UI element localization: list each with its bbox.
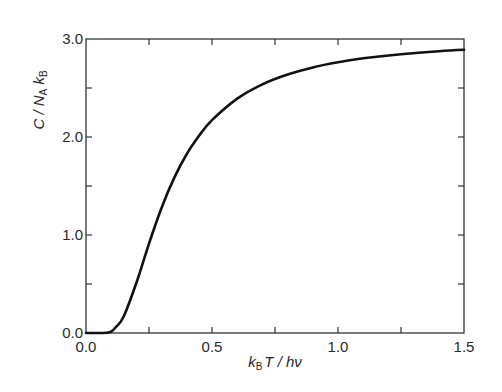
- x-tick-label: 0.5: [202, 338, 223, 355]
- heat-capacity-chart: 0.00.51.01.50.01.02.03.0 kBT / hν C / NA…: [0, 0, 502, 392]
- x-tick-label: 1.5: [454, 338, 475, 355]
- y-axis-label: C / NA kB: [30, 70, 49, 130]
- axis-ticks: [86, 39, 464, 333]
- x-axis-label: kBT / hν: [248, 353, 302, 372]
- tick-labels: 0.00.51.01.50.01.02.03.0: [62, 30, 474, 355]
- y-tick-label: 2.0: [62, 128, 83, 145]
- data-curve: [86, 50, 464, 333]
- plot-frame: [86, 39, 464, 333]
- y-tick-label: 0.0: [62, 324, 83, 341]
- y-tick-label: 1.0: [62, 226, 83, 243]
- y-tick-label: 3.0: [62, 30, 83, 47]
- x-tick-label: 1.0: [328, 338, 349, 355]
